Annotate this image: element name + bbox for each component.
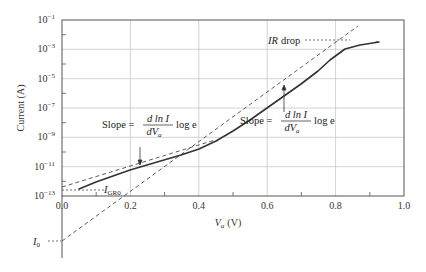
y-tick-labels: 10−1 10−3 10−5 10−7 10−9 10−11 10−13	[34, 13, 55, 201]
svg-text:10−5: 10−5	[38, 72, 56, 84]
gr-extrapolation-line	[62, 140, 215, 187]
slope-arrow-low	[138, 147, 142, 165]
svg-text:0.2: 0.2	[124, 200, 137, 211]
svg-text:10−1: 10−1	[38, 13, 56, 25]
svg-text:1.0: 1.0	[398, 200, 411, 211]
i0-label: I0	[32, 236, 41, 249]
svg-text:10−3: 10−3	[38, 42, 56, 54]
svg-text:Slope =: Slope =	[102, 119, 135, 130]
svg-text:10−11: 10−11	[34, 160, 55, 172]
diffusion-extrapolation-line	[62, 26, 358, 241]
ir-drop-label: IRdrop	[267, 35, 300, 46]
svg-text:d ln I: d ln I	[285, 109, 308, 120]
slope-annotation-mid: Slope = d ln I dVa log e	[240, 109, 335, 135]
svg-text:0.4: 0.4	[193, 200, 206, 211]
svg-text:Slope =: Slope =	[240, 115, 273, 126]
slope-annotation-low: Slope = d ln I dVa log e	[102, 113, 197, 139]
y-axis-title: Current (A)	[15, 85, 27, 132]
igr0-label: IGR0	[103, 184, 121, 197]
svg-text:10−13: 10−13	[34, 189, 55, 201]
x-tick-labels: 0.0 0.2 0.4 0.6 0.8 1.0	[56, 200, 411, 211]
svg-text:0.8: 0.8	[329, 200, 342, 211]
x-axis-title: Va(V)	[215, 217, 242, 230]
diode-iv-chart: 10−1 10−3 10−5 10−7 10−9 10−11 10−13 0.0…	[0, 0, 426, 272]
svg-text:0.6: 0.6	[261, 200, 274, 211]
svg-text:10−9: 10−9	[38, 130, 56, 142]
svg-text:log e: log e	[314, 115, 335, 126]
svg-text:d ln I: d ln I	[147, 113, 170, 124]
svg-text:0.0: 0.0	[56, 200, 69, 211]
svg-text:dVa: dVa	[284, 122, 300, 135]
svg-text:log e: log e	[176, 119, 197, 130]
svg-text:10−7: 10−7	[38, 101, 56, 113]
